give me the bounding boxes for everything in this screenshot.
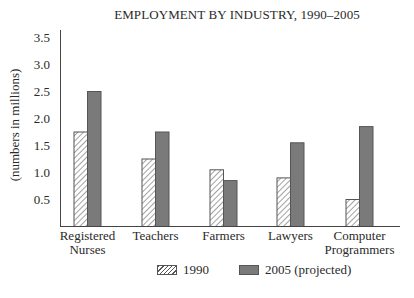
legend-item-2005: 2005 (projected) bbox=[239, 262, 351, 278]
bar-1990 bbox=[142, 159, 156, 227]
solid-swatch-icon bbox=[239, 265, 259, 275]
bar-1990 bbox=[277, 178, 291, 227]
legend-label: 1990 bbox=[183, 262, 209, 278]
bar-2005-projected bbox=[291, 143, 305, 227]
legend-label: 2005 (projected) bbox=[265, 262, 351, 278]
bar-1990 bbox=[346, 200, 360, 227]
legend-item-1990: 1990 bbox=[157, 262, 209, 278]
bar-1990 bbox=[74, 132, 88, 227]
bar-2005-projected bbox=[224, 181, 238, 227]
y-tick-label: 1.5 bbox=[34, 138, 50, 153]
x-tick-label-line: Nurses bbox=[43, 243, 133, 257]
y-tick-label: 2.0 bbox=[34, 111, 50, 126]
y-tick-label: 3.5 bbox=[34, 30, 50, 45]
y-tick-label: 3.0 bbox=[34, 57, 50, 72]
hatched-swatch-icon bbox=[157, 265, 177, 275]
y-axis: 0.51.01.52.02.53.03.5 bbox=[34, 30, 50, 207]
y-tick-label: 1.0 bbox=[34, 165, 50, 180]
legend: 1990 2005 (projected) bbox=[157, 262, 381, 278]
bar-2005-projected bbox=[156, 132, 170, 227]
bars-group bbox=[74, 92, 373, 227]
x-tick-label-line: Programmers bbox=[315, 243, 405, 257]
x-tick-label-line: Computer bbox=[315, 229, 405, 243]
y-tick-label: 2.5 bbox=[34, 84, 50, 99]
bar-2005-projected bbox=[360, 127, 374, 227]
y-tick-label: 0.5 bbox=[34, 192, 50, 207]
x-tick-label: ComputerProgrammers bbox=[315, 229, 405, 257]
bar-1990 bbox=[210, 170, 224, 227]
bar-2005-projected bbox=[88, 92, 102, 227]
